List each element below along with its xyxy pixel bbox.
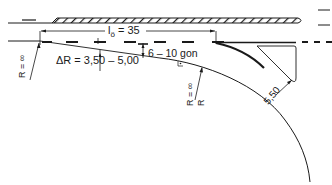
traffic-island <box>257 46 296 82</box>
hatched-median-strip <box>52 18 301 23</box>
radius-left-label: R = ∞ <box>18 55 27 78</box>
length-subscript: ö <box>110 30 114 39</box>
radius-right-label: R = ∞ <box>186 83 195 106</box>
radius-right-top: R = ∞ <box>185 83 195 106</box>
radius-right-leader <box>195 67 203 100</box>
length-label: lö = 35 <box>108 25 140 39</box>
turn-lane-edge <box>216 43 264 68</box>
road-edge-left <box>8 20 52 23</box>
radius-right-r-label: R <box>197 100 206 107</box>
road-taper-diagram <box>0 0 332 185</box>
delta-r-label: ΔR = 3,50 – 5,00 <box>56 55 139 66</box>
radius-left-leader <box>30 43 41 80</box>
road-edge-right <box>318 10 330 25</box>
length-value: = 35 <box>118 24 140 36</box>
angle-label: 6 – 10 gon <box>148 48 198 59</box>
